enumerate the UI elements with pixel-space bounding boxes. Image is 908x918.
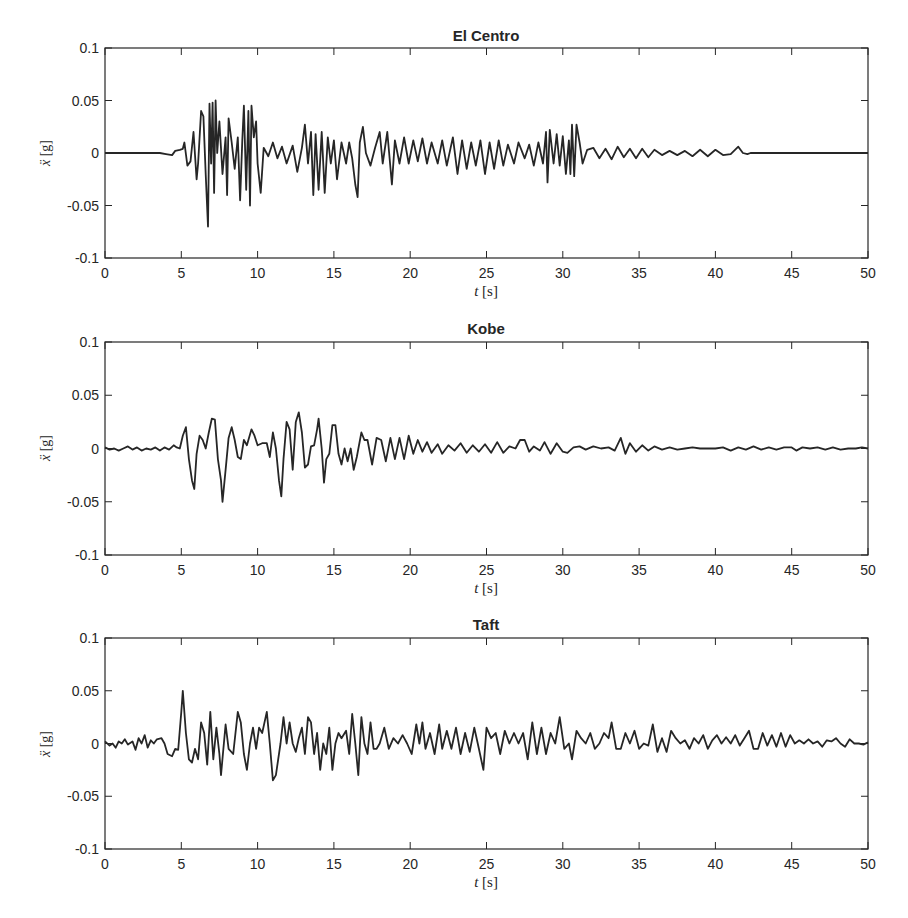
y-tick-label: 0 — [91, 145, 99, 161]
x-tick-label: 25 — [479, 562, 495, 578]
x-tick-label: 35 — [631, 562, 647, 578]
x-tick-label: 10 — [250, 562, 266, 578]
x-tick-label: 15 — [326, 856, 342, 872]
x-tick-label: 50 — [860, 265, 876, 281]
y-tick-label: -0.1 — [75, 250, 99, 266]
subplot-taft: Taft 05101520253035404550-0.1-0.0500.050… — [38, 616, 876, 890]
x-tick-label: 30 — [555, 562, 571, 578]
y-tick-label: -0.05 — [67, 494, 99, 510]
x-tick-label: 10 — [250, 856, 266, 872]
axes: 05101520253035404550-0.1-0.0500.050.1 — [67, 334, 876, 578]
x-axis-label: t [s] — [474, 283, 498, 299]
x-tick-label: 45 — [784, 562, 800, 578]
x-tick-label: 35 — [631, 856, 647, 872]
y-tick-label: 0 — [91, 441, 99, 457]
x-tick-label: 0 — [101, 856, 109, 872]
signal-line — [105, 101, 868, 227]
x-tick-label: 30 — [555, 265, 571, 281]
y-tick-label: 0.1 — [80, 334, 100, 350]
figure: El Centro 05101520253035404550-0.1-0.050… — [0, 0, 908, 918]
subplot-title: Taft — [473, 616, 499, 633]
y-tick-label: 0.1 — [80, 40, 100, 56]
axes: 05101520253035404550-0.1-0.0500.050.1 — [67, 630, 876, 872]
y-tick-label: 0 — [91, 736, 99, 752]
y-tick-label: 0.05 — [72, 683, 99, 699]
x-tick-label: 20 — [402, 562, 418, 578]
x-tick-label: 45 — [784, 856, 800, 872]
x-tick-label: 50 — [860, 856, 876, 872]
subplot-title: Kobe — [467, 320, 505, 337]
x-tick-label: 25 — [479, 265, 495, 281]
x-tick-label: 35 — [631, 265, 647, 281]
x-tick-label: 50 — [860, 562, 876, 578]
x-tick-label: 0 — [101, 265, 109, 281]
signal-line — [105, 412, 868, 502]
x-tick-label: 5 — [177, 856, 185, 872]
subplot-el-centro: El Centro 05101520253035404550-0.1-0.050… — [38, 27, 876, 299]
y-tick-label: 0.1 — [80, 630, 100, 646]
axes-box — [105, 342, 868, 555]
signal-line — [105, 691, 868, 781]
y-tick-label: -0.1 — [75, 547, 99, 563]
y-tick-label: -0.1 — [75, 841, 99, 857]
x-tick-label: 40 — [708, 265, 724, 281]
x-tick-label: 5 — [177, 265, 185, 281]
x-axis-label: t [s] — [474, 874, 498, 890]
x-tick-label: 0 — [101, 562, 109, 578]
x-tick-label: 20 — [402, 265, 418, 281]
y-axis-label: ẍ [g] — [38, 435, 53, 462]
y-tick-label: 0.05 — [72, 387, 99, 403]
x-axis-label: t [s] — [474, 580, 498, 596]
subplot-title: El Centro — [453, 27, 520, 44]
x-tick-label: 15 — [326, 265, 342, 281]
y-tick-label: 0.05 — [72, 93, 99, 109]
x-tick-label: 40 — [708, 856, 724, 872]
x-tick-label: 5 — [177, 562, 185, 578]
x-tick-label: 45 — [784, 265, 800, 281]
x-tick-label: 25 — [479, 856, 495, 872]
y-tick-label: -0.05 — [67, 198, 99, 214]
x-tick-label: 40 — [708, 562, 724, 578]
subplot-kobe: Kobe 05101520253035404550-0.1-0.0500.050… — [38, 320, 876, 596]
y-axis-label: ẍ [g] — [38, 731, 53, 758]
x-tick-label: 30 — [555, 856, 571, 872]
x-tick-label: 10 — [250, 265, 266, 281]
axes: 05101520253035404550-0.1-0.0500.050.1 — [67, 40, 876, 281]
y-tick-label: -0.05 — [67, 788, 99, 804]
x-tick-label: 20 — [402, 856, 418, 872]
y-axis-label: ẍ [g] — [38, 140, 53, 167]
axes-box — [105, 638, 868, 849]
x-tick-label: 15 — [326, 562, 342, 578]
